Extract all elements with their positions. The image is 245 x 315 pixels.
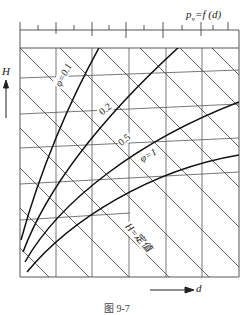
x-axis-label: d — [196, 282, 202, 294]
h-axis-arrow — [4, 80, 9, 118]
vertical-gridlines — [56, 48, 202, 277]
y-axis-label: H — [2, 65, 10, 77]
figure-caption: 图 9-7 — [104, 300, 130, 315]
formula-label: pv=f (d) — [186, 8, 221, 23]
plot-frame — [20, 30, 239, 277]
d-axis-arrow — [150, 287, 194, 293]
curve-phi-1 — [27, 155, 239, 272]
top-ruler — [20, 22, 239, 38]
formula-rest: =f (d) — [195, 8, 221, 20]
